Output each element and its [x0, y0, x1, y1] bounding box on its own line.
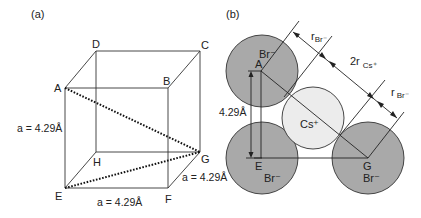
face-diagonal-eg	[65, 152, 200, 188]
vertex-g: G	[201, 153, 210, 165]
body-diagonal-ag	[65, 88, 200, 152]
vertex-c: C	[201, 39, 209, 51]
edge-label-vertical: a = 4.29Å	[17, 122, 62, 134]
r-br-2-label: rBr⁻	[391, 86, 409, 100]
panel-a-label: (a)	[31, 8, 44, 20]
vertex-h: H	[93, 156, 101, 168]
vertex-f: F	[165, 193, 172, 205]
edge-length-labels: a = 4.29Å a = 4.29Å a = 4.29Å	[17, 122, 227, 208]
panel-b-label: (b)	[226, 8, 239, 20]
edge-label-depth: a = 4.29Å	[182, 171, 227, 183]
vertex-b: B	[163, 75, 170, 87]
two-r-cs-label: 2rCs⁺	[350, 55, 377, 70]
vertex-a: A	[54, 82, 62, 94]
r-br-1-label: rBr⁻	[311, 30, 327, 44]
diagram-canvas: (a) D C A B H G	[0, 0, 421, 218]
diagonals	[65, 88, 200, 188]
point-e-label: E	[255, 160, 262, 172]
br-bottom-right-label: Br⁻	[363, 172, 380, 184]
point-g-label: G	[363, 160, 372, 172]
vertex-d: D	[92, 38, 100, 50]
edge-label-bottom: a = 4.29Å	[97, 196, 142, 208]
cs-label: Cs⁺	[300, 118, 319, 130]
point-a-label: A	[255, 58, 263, 70]
panel-a: (a) D C A B H G	[17, 8, 227, 208]
panel-b: (b)	[219, 8, 409, 194]
vertex-e: E	[55, 190, 62, 202]
br-bottom-left-label: Br⁻	[264, 172, 281, 184]
height-label: 4.29Å	[219, 106, 246, 118]
